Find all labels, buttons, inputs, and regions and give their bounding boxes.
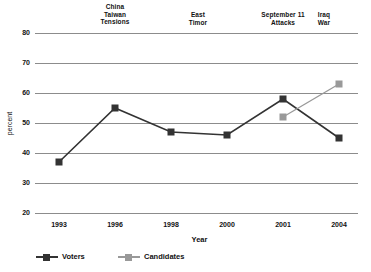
xtick-label-1993: 1993 <box>39 221 79 228</box>
xtick-label-2004: 2004 <box>319 221 359 228</box>
xtick-label-2001: 2001 <box>263 221 303 228</box>
datapoint-candidates-2001 <box>280 114 287 121</box>
datapoint-voters-1996 <box>112 105 119 112</box>
legend-item-voters[interactable]: Voters <box>36 252 85 261</box>
xtick-label-1998: 1998 <box>151 221 191 228</box>
legend-label-candidates: Candidates <box>144 252 184 261</box>
legend-item-candidates[interactable]: Candidates <box>118 252 184 261</box>
datapoint-voters-2000 <box>224 132 231 139</box>
xtick-label-2000: 2000 <box>207 221 247 228</box>
legend-label-voters: Voters <box>62 252 85 261</box>
line-chart: China Taiwan Tensions East Timor Septemb… <box>0 0 371 272</box>
datapoint-voters-1998 <box>168 129 175 136</box>
x-axis-title: Year <box>14 235 371 244</box>
legend-marker-voters <box>36 252 58 261</box>
series-line-candidates <box>283 84 339 117</box>
datapoint-voters-2001 <box>280 96 287 103</box>
datapoint-voters-2004 <box>336 135 343 142</box>
plot-area <box>0 0 371 272</box>
xtick-label-1996: 1996 <box>95 221 135 228</box>
datapoint-candidates-2004 <box>336 81 343 88</box>
datapoint-voters-1993 <box>56 159 63 166</box>
legend-marker-candidates <box>118 252 140 261</box>
